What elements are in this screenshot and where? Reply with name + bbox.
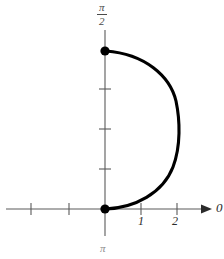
- y-axis-bottom-label: π: [100, 243, 106, 254]
- x-tick-label-1: 1: [138, 215, 144, 227]
- top-point-marker: [100, 46, 109, 55]
- y-axis-top-label: π 2: [97, 2, 107, 27]
- x-axis-end-label: 0: [216, 201, 223, 214]
- x-tick-label-2: 2: [172, 215, 178, 227]
- curve-path: [105, 51, 179, 209]
- x-axis-arrowhead: [201, 205, 212, 214]
- y-axis-top-label-denominator: 2: [97, 16, 107, 27]
- y-axis-top-label-numerator: π: [97, 2, 107, 13]
- plot-canvas: [0, 0, 224, 259]
- origin-point-marker: [100, 204, 109, 213]
- polar-curve-figure: 1 2 0 π 2 π: [0, 0, 224, 259]
